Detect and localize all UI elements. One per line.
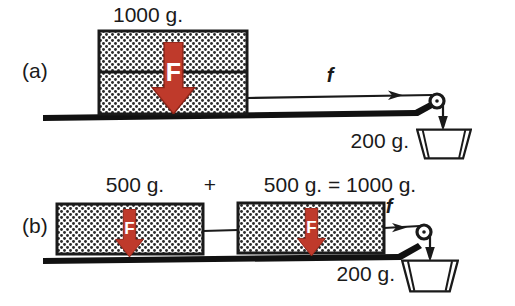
panel-b-hanging-mass-label: 200 g. — [337, 262, 395, 285]
weight-pan-icon — [417, 130, 471, 159]
panel-a-hanging-mass-label: 200 g. — [351, 129, 409, 152]
pulley-axle — [422, 230, 426, 234]
panel-b-plus-label: + — [204, 173, 216, 196]
friction-diagram: (a) 1000 g. F f — [0, 0, 515, 306]
panel-b-label: (b) — [22, 214, 48, 237]
pulley-axle — [435, 99, 439, 103]
weight-pan-icon — [402, 261, 458, 292]
panel-a-block-mass-label: 1000 g. — [113, 3, 183, 26]
force-arrow-b-right-glyph: F — [306, 218, 316, 237]
connecting-string-b — [203, 230, 238, 231]
force-arrow-a-glyph: F — [166, 58, 181, 86]
force-arrow-b-left-glyph: F — [124, 219, 134, 238]
panel-b-mass-right-label: 500 g. = 1000 g. — [264, 173, 416, 196]
panel-a-label: (a) — [22, 59, 48, 82]
panel-b-mass-left-label: 500 g. — [106, 173, 164, 196]
